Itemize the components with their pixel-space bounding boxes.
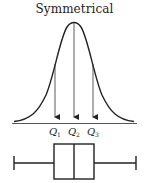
distribution-diagram: Q 1 Q 2 Q 3 — [0, 0, 149, 183]
box-plot — [14, 144, 136, 179]
svg-text:Q: Q — [87, 126, 95, 137]
svg-text:2: 2 — [76, 131, 80, 138]
svg-text:3: 3 — [95, 131, 99, 138]
q3-label: Q 3 — [87, 126, 99, 138]
svg-text:Q: Q — [68, 126, 76, 137]
svg-text:1: 1 — [57, 131, 61, 138]
q1-label: Q 1 — [49, 126, 61, 138]
svg-text:Q: Q — [49, 126, 57, 137]
q2-label: Q 2 — [68, 126, 80, 138]
